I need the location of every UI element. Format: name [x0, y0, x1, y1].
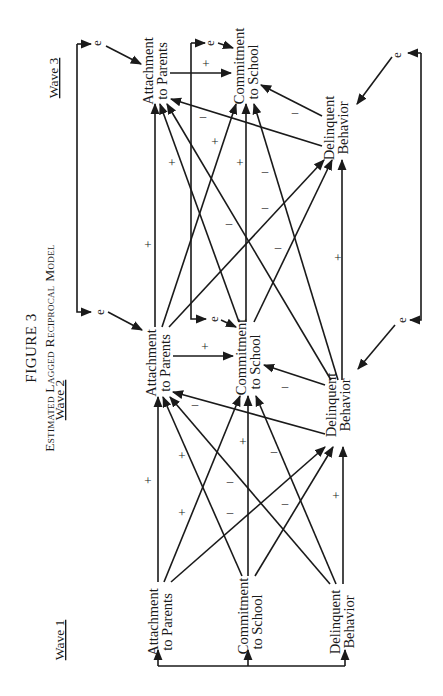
error-term-w3-attachment: e — [89, 40, 104, 46]
svg-text:+: + — [144, 237, 151, 252]
figure-number: FIGURE 3 — [23, 313, 39, 382]
node-w1-attachment: Attachment to Parents — [145, 588, 175, 656]
path-signs-wave1-to-wave2: + + – + + – – – + – — [144, 396, 339, 520]
svg-text:–: – — [226, 473, 234, 488]
error-term-w2-attachment: e — [92, 309, 107, 315]
svg-text:to School: to School — [245, 44, 261, 99]
wave-label-1: Wave 1 — [52, 620, 67, 661]
svg-text:to School: to School — [249, 594, 265, 649]
svg-text:to Parents: to Parents — [159, 593, 175, 651]
svg-text:+: + — [201, 339, 208, 354]
svg-text:–: – — [261, 163, 269, 178]
svg-text:+: + — [236, 155, 243, 170]
svg-text:–: – — [274, 239, 282, 254]
node-w2-commitment: Commitment to School — [233, 319, 263, 396]
node-w1-delinquent: Delinquent Behavior — [327, 590, 357, 654]
svg-text:+: + — [332, 488, 339, 503]
path-diagram: FIGURE 3 Estimated Lagged Reciprocal Mod… — [0, 0, 443, 696]
svg-text:+: + — [239, 434, 246, 449]
svg-text:–: – — [199, 108, 207, 123]
node-w3-delinquent: Delinquent Behavior — [321, 96, 351, 160]
svg-text:–: – — [270, 443, 278, 458]
wave1-nodes: Attachment to Parents Commitment to Scho… — [145, 578, 357, 656]
svg-text:+: + — [168, 155, 175, 170]
svg-text:–: – — [291, 104, 299, 119]
svg-text:+: + — [334, 250, 341, 265]
svg-text:–: – — [261, 199, 269, 214]
svg-text:+: + — [211, 134, 218, 149]
svg-text:+: + — [144, 473, 151, 488]
node-w1-commitment: Commitment to School — [235, 578, 265, 655]
node-w2-attachment: Attachment to Parents — [143, 329, 173, 397]
svg-text:–: – — [281, 495, 289, 510]
svg-text:Behavior: Behavior — [335, 101, 351, 154]
path-signs-wave2-to-wave3: + + – + + – – – + — [144, 134, 341, 265]
svg-text:to School: to School — [247, 334, 263, 389]
node-w2-delinquent: Delinquent Behavior — [323, 373, 353, 437]
wave-label-3: Wave 3 — [46, 57, 61, 98]
svg-text:Behavior: Behavior — [337, 378, 353, 431]
node-w3-attachment: Attachment to Parents — [140, 37, 170, 105]
svg-text:–: – — [281, 378, 289, 393]
error-term-w2-delinquent: e — [394, 317, 409, 323]
svg-text:Behavior: Behavior — [341, 595, 357, 648]
svg-text:to Parents: to Parents — [157, 334, 173, 392]
svg-text:+: + — [178, 448, 185, 463]
wave1-correlation-bracket — [158, 650, 345, 666]
svg-text:–: – — [226, 504, 234, 519]
svg-text:+: + — [202, 56, 209, 71]
svg-text:+: + — [178, 505, 185, 520]
svg-text:–: – — [225, 215, 233, 230]
wave-label-2: Wave 2 — [52, 380, 67, 421]
svg-text:to Parents: to Parents — [154, 42, 170, 100]
node-w3-commitment: Commitment to School — [231, 28, 261, 105]
paths-wave1-to-wave2 — [158, 396, 343, 584]
error-term-w2-commitment: e — [206, 316, 221, 322]
